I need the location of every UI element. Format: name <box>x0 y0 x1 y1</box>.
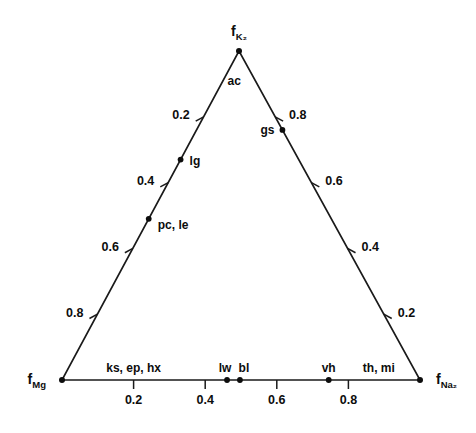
vertex-label-subscript: Mg <box>32 379 46 390</box>
tick-label-left-edge-0.2: 0.2 <box>172 108 189 122</box>
data-point-dot-lg <box>178 157 184 163</box>
data-point-label-ks-ep-hx: ks, ep, hx <box>106 361 161 375</box>
data-point-dot-gs <box>280 127 286 133</box>
data-point-label-lw: lw <box>219 361 232 375</box>
vertex-label-subscript: K₂ <box>236 31 247 42</box>
tick-label-left-edge-0.8: 0.8 <box>66 306 83 320</box>
data-point-label-ac: ac <box>228 74 242 88</box>
data-point-label-th-mi: th, mi <box>363 361 395 375</box>
vertex-label-subscript: Na₂ <box>441 379 457 390</box>
vertex-dot-top <box>236 48 242 54</box>
tick-label-bottom-edge-0.4: 0.4 <box>197 393 214 407</box>
tick-label-left-edge-0.6: 0.6 <box>101 240 118 254</box>
vertex-dot-right <box>417 377 423 383</box>
data-point-dot-lw <box>224 377 230 383</box>
data-point-dot-vh <box>326 377 332 383</box>
data-point-label-pc-le: pc, le <box>158 218 189 232</box>
ternary-diagram: 0.20.40.60.80.80.60.40.20.20.40.60.8 acg… <box>0 0 476 433</box>
tick-label-right-edge-0.6: 0.6 <box>325 174 342 188</box>
tick-label-right-edge-0.8: 0.8 <box>289 108 306 122</box>
tick-label-right-edge-0.2: 0.2 <box>398 306 415 320</box>
tick-label-bottom-edge-0.2: 0.2 <box>125 393 142 407</box>
data-point-label-vh: vh <box>322 361 336 375</box>
tick-label-bottom-edge-0.6: 0.6 <box>268 393 285 407</box>
data-point-label-bl: bl <box>239 361 250 375</box>
data-point-dot-bl <box>237 377 243 383</box>
data-point-dot-pc-le <box>146 216 152 222</box>
tick-label-bottom-edge-0.8: 0.8 <box>340 393 357 407</box>
data-point-label-lg: lg <box>190 154 201 168</box>
vertex-dot-left <box>59 377 65 383</box>
tick-label-left-edge-0.4: 0.4 <box>137 174 154 188</box>
data-point-label-gs: gs <box>260 123 274 137</box>
tick-label-right-edge-0.4: 0.4 <box>362 240 379 254</box>
